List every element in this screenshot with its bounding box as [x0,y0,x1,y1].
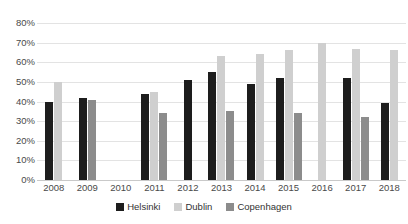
legend-item-dublin[interactable]: Dublin [174,202,212,212]
legend-label: Helsinki [127,202,160,212]
y-tick-label: 70% [5,38,35,48]
bar-chart: 80%70%60%50%40%30%20%10%0% 2008200920102… [0,0,408,224]
y-tick-label: 20% [5,136,35,146]
x-tick-label: 2008 [37,182,71,193]
x-tick-label: 2017 [339,182,373,193]
y-axis: 80%70%60%50%40%30%20%10%0% [4,0,35,224]
legend-swatch-helsinki-icon [116,203,124,211]
legend-item-copenhagen[interactable]: Copenhagen [226,202,291,212]
x-tick-label: 2011 [138,182,172,193]
y-tick-label: 80% [5,18,35,28]
legend-label: Dublin [185,202,212,212]
x-tick-label: 2016 [305,182,339,193]
x-tick-label: 2009 [71,182,105,193]
chart-legend: HelsinkiDublinCopenhagen [0,202,408,212]
legend-item-helsinki[interactable]: Helsinki [116,202,160,212]
x-tick-label: 2013 [205,182,239,193]
legend-swatch-dublin-icon [174,203,182,211]
y-tick-label: 0% [5,175,35,185]
y-tick-label: 60% [5,57,35,67]
x-axis: 2008200920102011201220132014201520162017… [37,0,406,224]
legend-label: Copenhagen [237,202,291,212]
x-tick-label: 2010 [104,182,138,193]
y-tick-label: 40% [5,97,35,107]
y-tick-label: 10% [5,155,35,165]
x-tick-label: 2015 [272,182,306,193]
y-tick-label: 50% [5,77,35,87]
x-tick-label: 2018 [372,182,406,193]
y-tick-label: 30% [5,116,35,126]
legend-swatch-copenhagen-icon [226,203,234,211]
x-tick-label: 2012 [171,182,205,193]
x-tick-label: 2014 [238,182,272,193]
